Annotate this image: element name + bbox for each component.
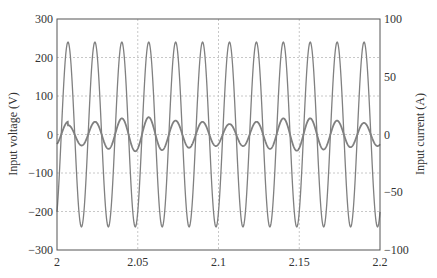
y-axis-left-ticks: 3002001000−100−200−300 bbox=[28, 12, 53, 257]
x-axis-ticks: 22.052.12.152.2 bbox=[54, 255, 388, 269]
x-tick-label: 2.2 bbox=[373, 255, 388, 269]
y-axis-left-title: Input voltage (V) bbox=[6, 92, 20, 175]
y-right-tick-label: 0 bbox=[384, 128, 390, 142]
y-right-tick-label: 100 bbox=[384, 12, 402, 26]
y-tick-label: 0 bbox=[47, 128, 53, 142]
y-tick-label: −100 bbox=[28, 166, 53, 180]
y-tick-label: −200 bbox=[28, 205, 53, 219]
y-tick-label: 200 bbox=[35, 51, 53, 65]
y-right-tick-label: 50 bbox=[384, 70, 396, 84]
y-right-tick-label: −50 bbox=[384, 185, 403, 199]
chart: 22.052.12.152.2 3002001000−100−200−300 1… bbox=[0, 0, 437, 278]
y-tick-label: −300 bbox=[28, 243, 53, 257]
y-tick-label: 300 bbox=[35, 12, 53, 26]
y-axis-right-title: Input current (A) bbox=[413, 93, 427, 175]
y-tick-label: 100 bbox=[35, 89, 53, 103]
x-tick-label: 2.1 bbox=[211, 255, 226, 269]
x-tick-label: 2.15 bbox=[289, 255, 310, 269]
y-axis-right-ticks: 100500−50−100 bbox=[384, 12, 409, 257]
x-tick-label: 2.05 bbox=[127, 255, 148, 269]
x-tick-label: 2 bbox=[54, 255, 60, 269]
y-right-tick-label: −100 bbox=[384, 243, 409, 257]
